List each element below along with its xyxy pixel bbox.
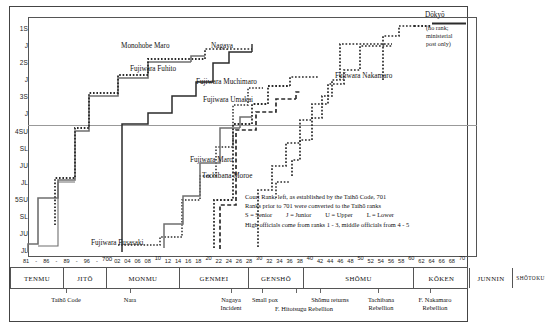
y-label-5su: 5SU xyxy=(10,196,28,203)
x-tick-12: 08 xyxy=(145,258,151,264)
y-label-1j: J xyxy=(10,42,28,49)
y-label-5ju: JU xyxy=(10,230,28,237)
x-tick-18: 20 xyxy=(205,255,211,261)
era-label-junnin: JUNNIN xyxy=(478,275,505,282)
x-tick-29: 42 xyxy=(317,258,323,264)
x-tick-15: 14 xyxy=(175,258,181,264)
era-band-shomu: SHŌMU xyxy=(303,268,413,288)
x-tick-9: 02 xyxy=(114,258,120,264)
x-tick-31: 46 xyxy=(337,258,343,264)
era-band-koken: KŌKEN xyxy=(413,268,469,288)
event-taiho-code-line1: Taihō Code xyxy=(51,296,81,304)
label-dokyo: Dōkyō xyxy=(425,11,445,19)
x-tick-37: 58 xyxy=(398,258,404,264)
event-nagaya-line1: Nagaya xyxy=(221,296,242,304)
event-shomu-returns-line1: Shōmu returns xyxy=(311,296,348,304)
era-band-shotoku: SHŌTOKU xyxy=(512,268,548,288)
era-row-bottom-rule xyxy=(10,288,468,289)
dokyo-note-line2: ministerial xyxy=(426,32,452,40)
x-tick-2: 86 xyxy=(43,258,49,264)
label-fujiwara-maro: Fujiwara Maro xyxy=(190,156,233,164)
rank-4-divider-rule xyxy=(28,125,477,126)
x-tick-6: 96 xyxy=(84,258,90,264)
event-tick-tachibana xyxy=(378,289,379,293)
legend-line-4: High officials come from ranks 1 - 3, mi… xyxy=(245,220,460,229)
era-label-jito: JITŌ xyxy=(77,275,93,282)
era-band-monmu: MONMU xyxy=(106,268,179,288)
label-fujiwara-umakai: Fujiwara Umakai xyxy=(203,96,253,104)
x-tick-42: 68 xyxy=(449,258,455,264)
label-mononobe-maro: Monohobe Maro xyxy=(121,42,170,50)
event-hitotsugu-line1: F. Hitotsugu Rebellion xyxy=(275,305,333,313)
x-tick-14: 12 xyxy=(165,258,171,264)
x-tick-23: 30 xyxy=(256,255,262,261)
label-fujiwara-muchimaro: Fujiwara Muchimaro xyxy=(196,78,257,86)
label-tachibana-moroe: Tachibana Moroe xyxy=(202,172,252,180)
era-band-jito: JITŌ xyxy=(63,268,106,288)
era-label-genmei: GENMEI xyxy=(200,275,229,282)
label-nagaya: Nagaya xyxy=(211,42,233,50)
x-tick-19: 22 xyxy=(216,258,222,264)
legend-box: Court Rank, left, as established by the … xyxy=(245,192,460,229)
y-label-5sl: SL xyxy=(10,213,28,220)
x-tick-7: - xyxy=(96,258,98,264)
event-nakamaro-rebellion: F. Nakamaro Rebellion xyxy=(419,296,452,313)
event-tick-nara xyxy=(130,289,131,293)
x-tick-36: 56 xyxy=(388,258,394,264)
event-tachibana-line1: Tachibana xyxy=(368,296,394,304)
legend-lower: L = Lower xyxy=(367,211,394,218)
x-tick-13: 10 xyxy=(155,255,161,261)
era-label-koken: KŌKEN xyxy=(429,275,455,282)
era-band-tenmu: TENMU xyxy=(10,268,63,288)
plot-axis-left xyxy=(28,17,29,257)
era-band-row: TENMU JITŌ MONMU GENMEI GENSHŌ SHŌMU KŌK… xyxy=(10,268,467,288)
era-band-genmei: GENMEI xyxy=(179,268,248,288)
x-tick-21: 26 xyxy=(236,258,242,264)
event-tick-smallpox xyxy=(262,289,263,293)
x-tick-0: 81 xyxy=(23,258,29,264)
x-tick-38: 60 xyxy=(408,255,414,261)
era-label-shomu: SHŌMU xyxy=(345,275,372,282)
x-tick-5: - xyxy=(76,258,78,264)
x-tick-27: 38 xyxy=(297,258,303,264)
event-nagaya-line2: Incident xyxy=(221,304,242,312)
event-nara-line1: Nara xyxy=(124,296,136,304)
x-tick-16: 16 xyxy=(185,258,191,264)
x-tick-24: 32 xyxy=(266,258,272,264)
event-hitotsugu-rebellion: F. Hitotsugu Rebellion xyxy=(275,305,333,313)
dokyo-note-line3: post only) xyxy=(426,40,451,48)
dokyo-note-line1: (no rank; xyxy=(426,24,449,32)
x-tick-1: - xyxy=(35,258,37,264)
x-tick-3: - xyxy=(55,258,57,264)
x-tick-28: 40 xyxy=(307,255,313,261)
x-tick-20: 24 xyxy=(226,258,232,264)
x-tick-17: 18 xyxy=(195,258,201,264)
y-label-3s: 3S xyxy=(10,93,28,100)
y-label-4sl: SL xyxy=(10,145,28,152)
label-fujiwara-fuhito: Fujiwara Fuhito xyxy=(130,65,176,73)
legend-line-2: Ranks prior to 701 were converted to the… xyxy=(245,201,460,210)
legend-junior: J = Junior xyxy=(286,211,311,218)
label-fujiwara-fusasaki: Fujiwara Fusasaki xyxy=(91,239,144,247)
x-tick-25: 34 xyxy=(276,258,282,264)
event-smallpox-line1: Small pox xyxy=(252,296,278,304)
x-tick-22: 28 xyxy=(246,258,252,264)
x-tick-10: 04 xyxy=(124,258,130,264)
x-tick-26: 36 xyxy=(287,258,293,264)
x-tick-32: 48 xyxy=(347,258,353,264)
legend-upper: U = Upper xyxy=(325,211,352,218)
legend-line-3: S = SeniorJ = JuniorU = UpperL = Lower xyxy=(245,210,460,219)
event-tick-nakamaro xyxy=(430,289,431,293)
event-tick-taiho xyxy=(66,289,67,293)
y-label-5jl: JL xyxy=(10,247,28,254)
event-tick-shomu-returns xyxy=(320,289,321,293)
x-tick-11: 06 xyxy=(134,258,140,264)
era-band-gensho: GENSHŌ xyxy=(248,268,303,288)
event-nara: Nara xyxy=(124,296,136,304)
label-fujiwara-nakamaro: Fujiwara Nakamaro xyxy=(335,72,392,80)
event-nagaya-incident: Nagaya Incident xyxy=(221,296,242,313)
era-label-gensho: GENSHŌ xyxy=(261,275,291,282)
x-tick-33: 50 xyxy=(357,255,363,261)
era-band-junnin: JUNNIN xyxy=(469,268,512,288)
